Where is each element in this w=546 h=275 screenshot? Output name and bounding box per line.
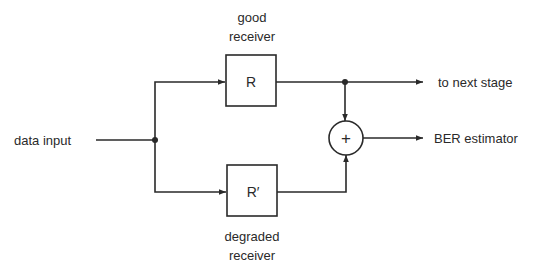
degraded-receiver-symbol: R′ — [247, 184, 260, 200]
branch-to-good-receiver — [155, 82, 225, 140]
degraded-receiver-caption-1: degraded — [225, 229, 280, 244]
block-diagram: data input good receiver R R′ degraded r… — [0, 0, 546, 275]
to-next-stage-label: to next stage — [438, 75, 512, 90]
degraded-to-adder-arrow — [277, 155, 346, 192]
good-receiver-caption-1: good — [238, 10, 267, 25]
good-receiver-symbol: R — [246, 74, 256, 90]
branch-to-degraded-receiver — [155, 140, 226, 192]
ber-estimator-label: BER estimator — [434, 131, 518, 146]
adder-plus-icon: + — [341, 129, 351, 148]
good-receiver-caption-2: receiver — [229, 29, 276, 44]
data-input-label: data input — [14, 133, 71, 148]
degraded-receiver-caption-2: receiver — [229, 248, 276, 263]
